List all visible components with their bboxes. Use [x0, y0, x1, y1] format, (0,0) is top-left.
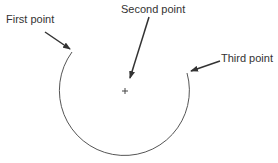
second-point-label: Second point: [121, 3, 185, 15]
circular-arc: [59, 52, 189, 155]
first-point-label: First point: [6, 13, 54, 25]
third-point-arrow: [191, 61, 220, 71]
second-point-arrow: [130, 17, 149, 78]
diagram-canvas: First point Second point Third point: [0, 0, 278, 163]
first-point-arrow: [45, 32, 70, 49]
center-marker-icon: [122, 88, 128, 94]
third-point-label: Third point: [221, 52, 273, 64]
